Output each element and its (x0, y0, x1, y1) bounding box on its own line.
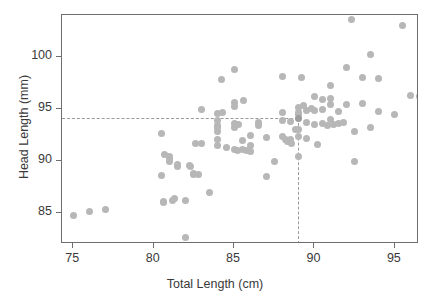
data-point (416, 93, 418, 100)
data-point (231, 103, 238, 110)
data-point (298, 74, 305, 81)
data-point (239, 137, 246, 144)
horizontal-reference-line (62, 118, 298, 119)
data-point (295, 153, 302, 160)
plot-frame (61, 14, 418, 243)
data-point (235, 121, 242, 128)
data-point (311, 93, 318, 100)
data-point (160, 199, 167, 206)
data-point (295, 115, 302, 122)
data-point (198, 106, 205, 113)
data-point (351, 128, 358, 135)
data-point (214, 128, 221, 135)
data-point (343, 101, 350, 108)
data-point (295, 133, 302, 140)
data-point (158, 130, 165, 137)
data-point (231, 66, 238, 73)
data-point (271, 158, 278, 165)
data-point (327, 101, 334, 108)
data-point (359, 74, 366, 81)
x-tick-mark (394, 243, 395, 248)
data-point (195, 171, 202, 178)
data-point (311, 107, 318, 114)
data-point (263, 134, 270, 141)
data-point (223, 144, 230, 151)
y-tick-label: 95 (10, 100, 52, 114)
data-point (158, 172, 165, 179)
data-point (247, 148, 254, 155)
data-point (102, 206, 109, 213)
data-point (343, 64, 350, 71)
x-tick-label: 75 (52, 251, 92, 265)
data-point (198, 140, 205, 147)
data-point (171, 195, 178, 202)
data-point (182, 197, 189, 204)
data-point (351, 158, 358, 165)
y-tick-label: 100 (10, 48, 52, 62)
data-point (391, 111, 398, 118)
data-point (303, 119, 310, 126)
data-point (174, 163, 181, 170)
data-point (288, 140, 295, 147)
data-point (279, 117, 286, 124)
plot-area (62, 15, 417, 242)
data-point (240, 97, 247, 104)
data-point (287, 118, 294, 125)
x-tick-mark (233, 243, 234, 248)
data-point (70, 212, 77, 219)
data-point (255, 122, 262, 129)
x-tick-label: 90 (293, 251, 333, 265)
data-point (206, 189, 213, 196)
data-point (359, 100, 366, 107)
data-point (367, 124, 374, 131)
data-point (295, 126, 302, 133)
data-point (303, 135, 310, 142)
data-point (314, 141, 321, 148)
y-tick-label: 85 (10, 204, 52, 218)
data-point (319, 96, 326, 103)
scatter-plot-figure: Head Length (mm) 859095100 7580859095 To… (0, 0, 430, 305)
data-point (182, 234, 189, 241)
data-point (218, 76, 225, 83)
x-tick-label: 85 (213, 251, 253, 265)
data-point (327, 82, 334, 89)
data-point (214, 142, 221, 149)
x-tick-mark (72, 243, 73, 248)
data-point (335, 108, 342, 115)
y-tick-label: 90 (10, 152, 52, 166)
data-point (311, 121, 318, 128)
data-point (407, 92, 414, 99)
data-point (367, 51, 374, 58)
data-point (279, 73, 286, 80)
y-axis-title: Head Length (mm) (17, 47, 31, 207)
x-tick-mark (313, 243, 314, 248)
data-point (319, 106, 326, 113)
data-point (375, 75, 382, 82)
x-tick-label: 95 (374, 251, 414, 265)
data-point (279, 109, 286, 116)
x-axis-title: Total Length (cm) (0, 277, 430, 291)
data-point (263, 173, 270, 180)
data-point (219, 109, 226, 116)
data-point (247, 132, 254, 139)
x-tick-mark (153, 243, 154, 248)
data-point (166, 158, 173, 165)
data-point (86, 208, 93, 215)
data-point (375, 108, 382, 115)
x-tick-label: 80 (133, 251, 173, 265)
data-point (348, 16, 355, 23)
data-point (340, 119, 347, 126)
data-point (399, 22, 406, 29)
